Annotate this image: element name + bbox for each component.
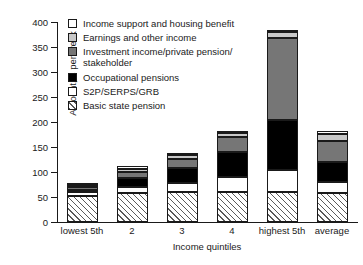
bar-segment-basic — [267, 192, 298, 222]
x-tick-label-highest-5th: highest 5th — [259, 226, 305, 236]
legend-item-label: Income support and housing benefit — [83, 18, 234, 29]
bar-segment-investment — [267, 38, 298, 120]
legend-item: Occupational pensions — [68, 72, 234, 83]
bar-segment-s2p — [317, 182, 348, 193]
legend-item: Basic state pension — [68, 100, 234, 111]
bar-segment-occupational — [167, 168, 198, 183]
bar-3 — [167, 153, 198, 222]
bar-segment-earnings — [217, 133, 248, 137]
legend-item-label: S2P/SERPS/GRB — [83, 86, 159, 97]
y-tick-label-400: 400 — [32, 18, 48, 28]
y-axis-line — [57, 22, 58, 223]
bar-segment-occupational — [217, 152, 248, 177]
y-tick-100 — [51, 172, 57, 173]
bar-2 — [117, 166, 148, 222]
bar-segment-support — [317, 131, 348, 134]
legend-swatch-icon — [68, 87, 77, 96]
bar-segment-s2p — [267, 170, 298, 192]
y-tick-label-100: 100 — [32, 168, 48, 178]
bar-segment-support — [267, 30, 298, 32]
bar-highest-5th — [267, 30, 298, 222]
y-tick-label-0: 0 — [43, 218, 48, 228]
chart-legend: Income support and housing benefitEarnin… — [68, 18, 234, 114]
bar-average — [317, 131, 348, 222]
bar-segment-investment — [217, 137, 248, 152]
bar-segment-investment — [67, 187, 98, 191]
legend-item: S2P/SERPS/GRB — [68, 86, 234, 97]
bar-segment-basic — [117, 193, 148, 222]
y-tick-label-250: 250 — [32, 93, 48, 103]
bar-segment-earnings — [167, 155, 198, 159]
y-tick-400 — [51, 22, 57, 23]
bar-4 — [217, 131, 248, 222]
bar-segment-basic — [67, 196, 98, 222]
y-tick-0 — [51, 222, 57, 223]
legend-swatch-icon — [68, 101, 77, 110]
bar-segment-basic — [167, 192, 198, 222]
bar-segment-occupational — [67, 190, 98, 192]
x-tick-label-2: 2 — [129, 226, 134, 236]
legend-swatch-icon — [68, 73, 77, 82]
bar-segment-s2p — [167, 183, 198, 192]
y-tick-50 — [51, 197, 57, 198]
legend-item: Investment income/private pension/ stake… — [68, 46, 234, 68]
y-tick-label-50: 50 — [37, 193, 48, 203]
bar-segment-s2p — [117, 187, 148, 193]
x-tick-label-average: average — [315, 226, 349, 236]
legend-swatch-icon — [68, 47, 77, 56]
stacked-bar-chart: Amount, £ per week 050100150200250300350… — [0, 0, 363, 265]
y-tick-label-300: 300 — [32, 68, 48, 78]
bar-segment-investment — [117, 172, 148, 179]
bar-segment-basic — [217, 192, 248, 222]
bar-segment-earnings — [267, 32, 298, 38]
bar-lowest-5th — [67, 183, 98, 222]
bar-segment-basic — [317, 193, 348, 222]
x-axis-title: Income quintiles — [57, 241, 357, 252]
legend-item-label: Investment income/private pension/ stake… — [83, 46, 232, 68]
bar-segment-support — [167, 153, 198, 155]
y-tick-250 — [51, 97, 57, 98]
bar-segment-earnings — [317, 134, 348, 141]
bar-segment-occupational — [267, 120, 298, 170]
legend-item: Earnings and other income — [68, 32, 234, 43]
legend-swatch-icon — [68, 33, 77, 42]
y-tick-200 — [51, 122, 57, 123]
x-axis-line — [57, 222, 358, 223]
x-tick-label-4: 4 — [229, 226, 234, 236]
bar-segment-investment — [167, 159, 198, 168]
legend-item-label: Earnings and other income — [83, 32, 197, 43]
y-tick-300 — [51, 72, 57, 73]
legend-swatch-icon — [68, 19, 77, 28]
y-tick-label-150: 150 — [32, 143, 48, 153]
legend-item-label: Basic state pension — [83, 100, 165, 111]
legend-item: Income support and housing benefit — [68, 18, 234, 29]
bar-segment-earnings — [117, 169, 148, 172]
bar-segment-s2p — [217, 177, 248, 192]
x-tick-label-lowest-5th: lowest 5th — [61, 226, 104, 236]
y-tick-350 — [51, 47, 57, 48]
y-tick-label-350: 350 — [32, 43, 48, 53]
bar-segment-support — [117, 166, 148, 169]
legend-item-label: Occupational pensions — [83, 72, 179, 83]
bar-segment-support — [217, 131, 248, 133]
bar-segment-occupational — [117, 178, 148, 187]
y-tick-label-200: 200 — [32, 118, 48, 128]
x-tick-label-3: 3 — [179, 226, 184, 236]
bar-segment-investment — [317, 141, 348, 162]
bar-segment-s2p — [67, 192, 98, 196]
bar-segment-occupational — [317, 162, 348, 182]
bar-segment-support — [67, 183, 98, 185]
y-tick-150 — [51, 147, 57, 148]
